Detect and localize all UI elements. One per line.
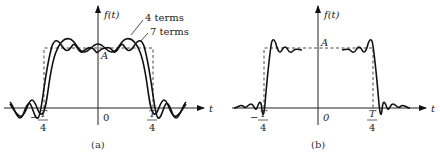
- svg-text:T: T: [369, 108, 377, 119]
- fourier-figure: 4 terms 7 terms f(t) t A 0 − T 4 T 4 (a)…: [0, 0, 440, 162]
- svg-text:4: 4: [149, 122, 155, 133]
- tick-label-neg-T-over-4: − T 4: [250, 108, 268, 133]
- svg-text:−: −: [30, 112, 38, 123]
- svg-text:4: 4: [260, 122, 266, 133]
- panel-b: f(t) t A 0 − T 4 T 4 (b): [232, 6, 436, 150]
- panel-caption-b: (b): [311, 139, 325, 150]
- x-axis-label: t: [209, 103, 214, 114]
- x-axis-label: t: [431, 103, 436, 114]
- origin-label: 0: [103, 112, 109, 123]
- amplitude-label: A: [100, 50, 108, 61]
- y-axis-label: f(t): [323, 9, 340, 20]
- origin-label: 0: [323, 112, 330, 123]
- svg-text:4: 4: [369, 122, 375, 133]
- curve-gibbs-right: [342, 40, 410, 115]
- svg-text:4: 4: [40, 122, 46, 133]
- svg-text:−: −: [250, 112, 258, 123]
- annotation-4-terms: 4 terms: [145, 12, 184, 23]
- y-axis-label: f(t): [103, 9, 120, 20]
- leader-7-terms: [140, 33, 148, 42]
- svg-text:T: T: [260, 108, 268, 119]
- leader-4-terms: [131, 20, 143, 35]
- panel-a: 4 terms 7 terms f(t) t A 0 − T 4 T 4 (a): [4, 6, 214, 150]
- panel-caption-a: (a): [91, 139, 105, 150]
- annotation-7-terms: 7 terms: [150, 26, 189, 37]
- curve-gibbs-left: [234, 40, 302, 115]
- amplitude-label: A: [320, 37, 328, 48]
- svg-text:T: T: [40, 108, 48, 119]
- tick-label-T-over-4: T 4: [367, 108, 377, 133]
- tick-label-T-over-4: T 4: [147, 108, 157, 133]
